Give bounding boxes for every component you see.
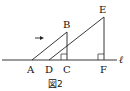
segment-DE: [49, 17, 104, 60]
label-B: B: [63, 19, 70, 30]
right-angle-C: [61, 54, 67, 60]
label-line-l: ℓ: [119, 54, 123, 65]
label-E: E: [99, 4, 106, 15]
figure-caption: 図2: [48, 79, 63, 89]
label-D: D: [45, 64, 53, 75]
right-angle-F: [98, 54, 104, 60]
label-A: A: [26, 64, 35, 75]
segment-AB: [32, 32, 67, 60]
label-F: F: [100, 64, 107, 75]
label-C: C: [63, 64, 71, 75]
geometry-figure: A D C F B E ℓ 図2: [0, 0, 130, 91]
right-arrow-icon: [35, 36, 44, 40]
